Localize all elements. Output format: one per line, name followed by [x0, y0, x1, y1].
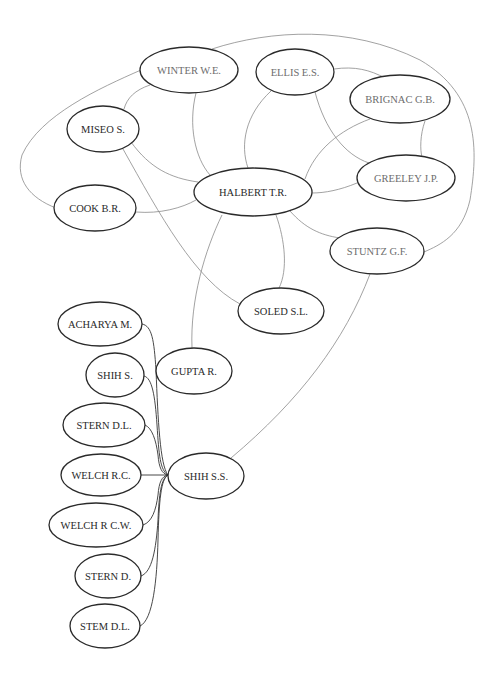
- edge-miseo-halbert: [131, 142, 198, 182]
- edge-halbert-gupta: [192, 215, 222, 348]
- node-label: MISEO S.: [81, 124, 125, 135]
- node-label: STERN D.: [85, 571, 131, 582]
- node-label: SOLED S.L.: [254, 306, 308, 317]
- node-label: HALBERT T.R.: [219, 187, 287, 198]
- edge-stem_dl-shih_ss: [140, 475, 168, 626]
- edge-acharya-shih_ss: [142, 324, 168, 475]
- edge-ellis-halbert: [245, 91, 271, 168]
- node-ellis: ELLIS E.S.: [256, 49, 334, 95]
- node-label: SHIH S.S.: [184, 471, 228, 482]
- edge-greeley-halbert: [312, 183, 357, 193]
- node-label: GREELEY J.P.: [374, 173, 438, 184]
- node-label: WINTER W.E.: [157, 65, 221, 76]
- node-welch_rcw: WELCH R C.W.: [49, 503, 143, 547]
- node-label: SHIH S.: [97, 370, 133, 381]
- node-layer: WINTER W.E.ELLIS E.S.BRIGNAC G.B.MISEO S…: [49, 47, 455, 648]
- node-label: WELCH R.C.: [71, 470, 130, 481]
- node-welch_rc: WELCH R.C.: [61, 454, 141, 496]
- node-shih_s: SHIH S.: [86, 353, 144, 397]
- edge-welch_rcw-shih_ss: [143, 475, 168, 525]
- node-stern_d: STERN D.: [75, 554, 141, 598]
- node-label: ACHARYA M.: [68, 319, 132, 330]
- node-label: STERN D.L.: [76, 420, 131, 431]
- edge-winter-stuntz: [212, 34, 474, 252]
- node-shih_ss: SHIH S.S.: [168, 453, 244, 499]
- edge-winter-miseo: [124, 85, 150, 109]
- edge-halbert-stuntz: [290, 211, 340, 238]
- edge-halbert-soled: [276, 215, 284, 288]
- node-label: STUNTZ G.F.: [347, 246, 408, 257]
- node-stuntz: STUNTZ G.F.: [330, 228, 424, 274]
- edge-shih_s-shih_ss: [144, 376, 168, 475]
- node-gupta: GUPTA R.: [156, 348, 232, 394]
- node-soled: SOLED S.L.: [238, 288, 324, 334]
- edge-stern_d-shih_ss: [141, 475, 168, 576]
- node-label: GUPTA R.: [171, 366, 217, 377]
- node-miseo: MISEO S.: [67, 106, 139, 152]
- node-acharya: ACHARYA M.: [58, 302, 142, 346]
- edge-cook-halbert: [136, 200, 196, 212]
- node-cook: COOK B.R.: [54, 185, 136, 231]
- node-halbert: HALBERT T.R.: [194, 168, 312, 216]
- node-stern_dl: STERN D.L.: [63, 403, 145, 447]
- node-greeley: GREELEY J.P.: [357, 155, 455, 201]
- edge-ellis-brignac: [334, 68, 385, 78]
- node-stem_dl: STEM D.L.: [70, 604, 140, 648]
- node-label: BRIGNAC G.B.: [365, 94, 435, 105]
- node-label: COOK B.R.: [69, 203, 121, 214]
- network-diagram: WINTER W.E.ELLIS E.S.BRIGNAC G.B.MISEO S…: [0, 0, 493, 676]
- node-brignac: BRIGNAC G.B.: [350, 75, 450, 123]
- node-winter: WINTER W.E.: [140, 47, 238, 93]
- node-label: WELCH R C.W.: [61, 520, 132, 531]
- edge-brignac-greeley: [421, 121, 425, 157]
- node-label: STEM D.L.: [80, 621, 130, 632]
- node-label: ELLIS E.S.: [271, 67, 320, 78]
- edge-winter-halbert: [193, 93, 210, 175]
